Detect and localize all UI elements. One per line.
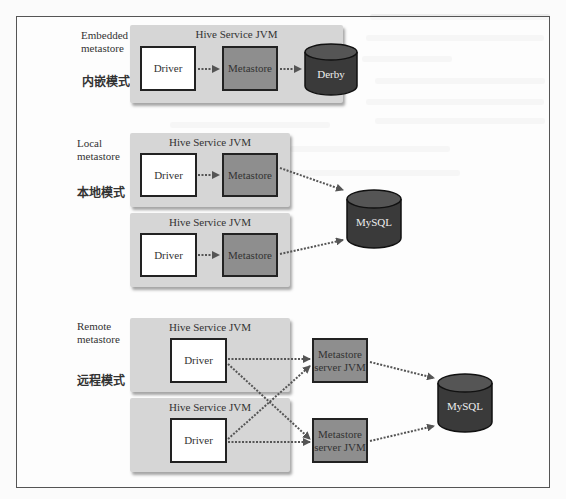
metastore-label: Metastore bbox=[228, 249, 272, 262]
metastore-box: Metastore bbox=[222, 46, 278, 91]
jvm-title: Hive Service JVM bbox=[130, 401, 290, 413]
jvm-title: Hive Service JVM bbox=[130, 216, 290, 228]
section-label-remote-zh: 远程模式 bbox=[77, 371, 125, 388]
metastore-server-label: Metastore server JVM bbox=[314, 348, 366, 374]
derby-database-icon: Derby bbox=[303, 42, 359, 98]
metastore-box: Metastore bbox=[222, 233, 278, 277]
mysql-label: MySQL bbox=[436, 400, 494, 412]
metastore-server-label: Metastore server JVM bbox=[314, 428, 366, 454]
jvm-title: Hive Service JVM bbox=[130, 136, 290, 148]
section-label-local: Local metastore bbox=[77, 137, 120, 163]
derby-label: Derby bbox=[303, 68, 359, 80]
metastore-label: Metastore bbox=[228, 62, 272, 75]
metastore-server-jvm-box: Metastore server JVM bbox=[312, 418, 368, 463]
driver-label: Driver bbox=[184, 354, 213, 367]
driver-label: Driver bbox=[184, 434, 213, 447]
mysql-database-icon: MySQL bbox=[436, 372, 494, 434]
jvm-title: Hive Service JVM bbox=[130, 28, 343, 40]
driver-box: Driver bbox=[140, 153, 197, 197]
section-label-embedded: Embedded metastore bbox=[81, 29, 128, 55]
section-label-remote: Remote metastore bbox=[77, 320, 120, 346]
driver-box: Driver bbox=[170, 418, 227, 463]
metastore-label: Metastore bbox=[228, 169, 272, 182]
driver-label: Driver bbox=[154, 169, 183, 182]
driver-box: Driver bbox=[170, 338, 227, 383]
mysql-label: MySQL bbox=[345, 216, 403, 228]
mysql-database-icon: MySQL bbox=[345, 188, 403, 250]
section-label-embedded-zh: 内嵌模式 bbox=[82, 72, 130, 89]
driver-box: Driver bbox=[140, 233, 197, 277]
driver-label: Driver bbox=[154, 62, 183, 75]
metastore-box: Metastore bbox=[222, 153, 278, 197]
jvm-title: Hive Service JVM bbox=[130, 321, 290, 333]
driver-label: Driver bbox=[154, 249, 183, 262]
driver-box: Driver bbox=[140, 46, 196, 91]
metastore-server-jvm-box: Metastore server JVM bbox=[312, 338, 368, 383]
section-label-local-zh: 本地模式 bbox=[77, 183, 125, 200]
